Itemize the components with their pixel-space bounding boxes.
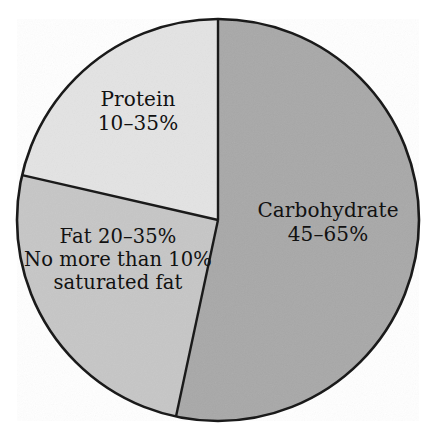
protein-label-line-2: 10–35% (62, 112, 214, 136)
slice-label-protein: Protein 10–35% (62, 88, 214, 135)
protein-label-line-1: Protein (62, 88, 214, 112)
fat-label-line-1: Fat 20–35% (20, 225, 216, 248)
fat-label-line-3: saturated fat (20, 271, 216, 294)
carbohydrate-label-line-2: 45–65% (244, 223, 412, 247)
pie-chart: Protein 10–35% Carbohydrate 45–65% Fat 2… (0, 0, 431, 431)
slice-label-fat: Fat 20–35% No more than 10% saturated fa… (20, 225, 216, 294)
carbohydrate-label-line-1: Carbohydrate (244, 199, 412, 223)
fat-label-line-2: No more than 10% (20, 248, 216, 271)
slice-label-carbohydrate: Carbohydrate 45–65% (244, 199, 412, 246)
